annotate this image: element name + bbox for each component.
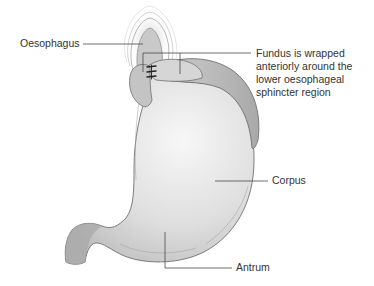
pylorus-shading [65, 223, 102, 264]
stomach-outline [65, 74, 254, 264]
fundus-left-lobe [130, 64, 153, 106]
oesophagus-label: Oesophagus [20, 37, 80, 50]
antrum-label: Antrum [236, 261, 270, 274]
corpus-label: Corpus [272, 174, 306, 187]
fundus-label: Fundus is wrapped anteriorly around the … [256, 47, 371, 99]
